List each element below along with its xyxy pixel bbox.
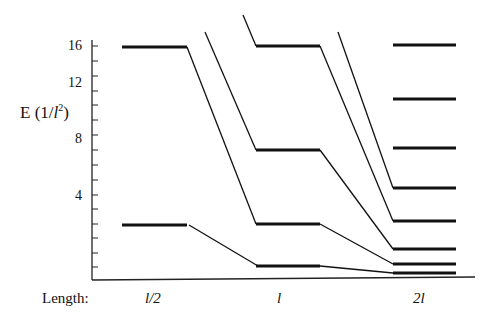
x-category-label: 2l — [413, 290, 425, 307]
y-tick-label: 12 — [52, 75, 82, 91]
y-tick-label: 8 — [52, 131, 82, 147]
x-axis-label: Length: — [42, 290, 89, 307]
connector-line — [189, 225, 258, 266]
connector-line — [320, 266, 393, 273]
connector-line — [187, 47, 256, 224]
connector-lines — [187, 15, 393, 273]
connector-line — [243, 15, 256, 46]
axes — [92, 40, 475, 280]
energy-levels — [122, 45, 456, 273]
x-category-label: l — [277, 290, 281, 307]
connector-line — [205, 32, 256, 150]
connector-line — [320, 224, 393, 264]
y-tick-label: 16 — [52, 38, 82, 54]
y-tick-label: 4 — [52, 188, 82, 204]
energy-level-chart: E (1/l2) 161284 Length: l/2l2l — [0, 0, 495, 324]
x-category-label: l/2 — [145, 290, 161, 307]
connector-line — [320, 46, 393, 221]
connector-line — [320, 150, 393, 249]
x-axis — [92, 277, 475, 280]
y-axis-label: E (1/l2) — [20, 102, 69, 123]
